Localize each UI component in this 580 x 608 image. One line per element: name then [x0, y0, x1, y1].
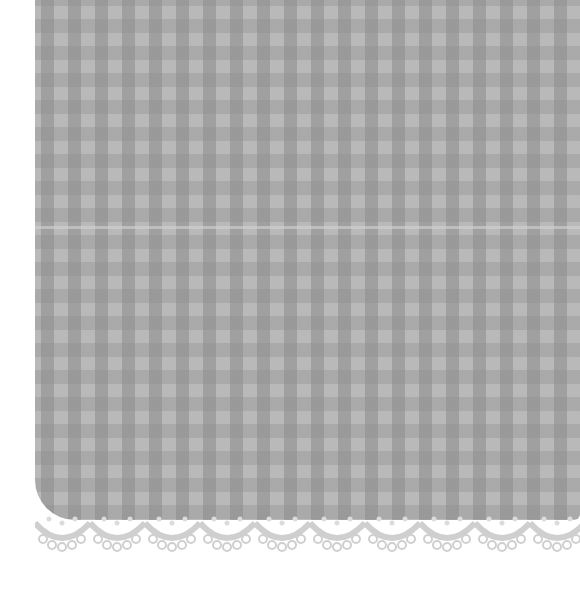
fabric-seam — [35, 226, 580, 229]
gingham-fabric — [35, 0, 580, 520]
lace-trim — [35, 505, 580, 565]
